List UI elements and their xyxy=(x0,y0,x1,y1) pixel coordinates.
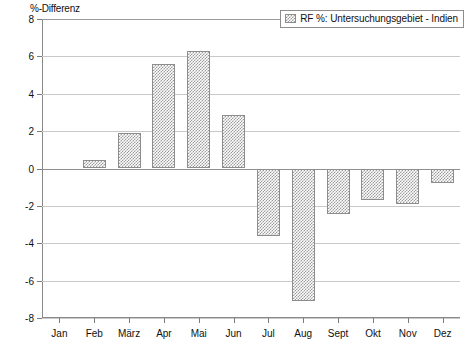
x-tick-mark-nov xyxy=(408,318,409,323)
y-tick-label: -2 xyxy=(25,200,34,211)
x-tick-label-jan: Jan xyxy=(51,328,67,339)
x-tick-label-apr: Apr xyxy=(156,328,172,339)
bar-chart: %-Differenz 86420-2-4-6-8 JanFebMärzAprM… xyxy=(0,0,470,356)
gridline-4 xyxy=(42,94,460,95)
y-tick-label: 4 xyxy=(28,88,34,99)
y-tick-mark xyxy=(37,19,42,20)
x-tick-label-mai: Mai xyxy=(191,328,207,339)
y-tick-mark xyxy=(37,206,42,207)
y-tick-mark xyxy=(37,94,42,95)
y-tick-mark xyxy=(37,169,42,170)
x-tick-mark-sept xyxy=(338,318,339,323)
legend-swatch-icon xyxy=(285,14,296,23)
legend-entry-label: RF %: Untersuchungsgebiet - Indien xyxy=(300,13,458,24)
x-tick-label-okt: Okt xyxy=(365,328,381,339)
gridline-6 xyxy=(42,56,460,57)
gridline-2 xyxy=(42,131,460,132)
bar-feb xyxy=(83,160,106,168)
x-tick-label-märz: März xyxy=(118,328,140,339)
x-tick-mark-apr xyxy=(164,318,165,323)
bar-sept xyxy=(327,169,350,215)
y-tick-label: 0 xyxy=(28,163,34,174)
bar-aug xyxy=(292,169,315,302)
x-tick-label-dez: Dez xyxy=(434,328,452,339)
y-tick-mark xyxy=(37,243,42,244)
bar-apr xyxy=(152,64,175,169)
x-tick-label-jun: Jun xyxy=(226,328,242,339)
y-axis-title: %-Differenz xyxy=(30,3,80,14)
y-tick-label: 2 xyxy=(28,126,34,137)
x-tick-mark-jun xyxy=(234,318,235,323)
x-tick-mark-okt xyxy=(373,318,374,323)
x-tick-mark-dez xyxy=(443,318,444,323)
x-tick-mark-aug xyxy=(303,318,304,323)
x-tick-label-nov: Nov xyxy=(399,328,417,339)
x-tick-label-sept: Sept xyxy=(328,328,349,339)
bar-okt xyxy=(361,169,384,201)
y-tick-label: 6 xyxy=(28,51,34,62)
gridline--2 xyxy=(42,206,460,207)
x-tick-mark-jul xyxy=(268,318,269,323)
bar-jun xyxy=(222,115,245,168)
x-tick-mark-feb xyxy=(94,318,95,323)
y-tick-label: -4 xyxy=(25,238,34,249)
y-tick-label: 8 xyxy=(28,14,34,25)
gridline--6 xyxy=(42,281,460,282)
x-tick-label-feb: Feb xyxy=(86,328,103,339)
y-tick-mark xyxy=(37,281,42,282)
y-tick-mark xyxy=(37,56,42,57)
y-tick-label: -8 xyxy=(25,313,34,324)
y-tick-mark xyxy=(37,131,42,132)
bar-nov xyxy=(396,169,419,205)
bar-dez xyxy=(431,169,454,184)
y-tick-mark xyxy=(37,318,42,319)
y-tick-label: -6 xyxy=(25,275,34,286)
gridline--8 xyxy=(42,318,460,319)
x-tick-label-aug: Aug xyxy=(294,328,312,339)
gridline--4 xyxy=(42,243,460,244)
x-tick-label-jul: Jul xyxy=(262,328,275,339)
plot-inner: 86420-2-4-6-8 JanFebMärzAprMaiJunJulAugS… xyxy=(42,19,460,318)
x-tick-mark-mai xyxy=(199,318,200,323)
bar-märz xyxy=(118,133,141,169)
bar-jul xyxy=(257,169,280,236)
plot-area: 86420-2-4-6-8 JanFebMärzAprMaiJunJulAugS… xyxy=(42,19,460,318)
x-tick-mark-jan xyxy=(59,318,60,323)
x-tick-mark-märz xyxy=(129,318,130,323)
bar-mai xyxy=(187,51,210,169)
chart-legend: RF %: Untersuchungsgebiet - Indien xyxy=(280,10,464,28)
